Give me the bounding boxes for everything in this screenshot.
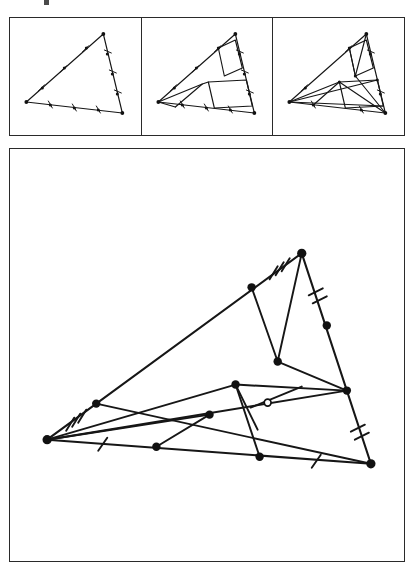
- point-right-vertex: [366, 459, 375, 468]
- scan-speck-artifact: [44, 0, 49, 5]
- double-tick-upper-right-b: [313, 296, 327, 303]
- thumb2-left-wedge-side: [175, 84, 202, 107]
- thumb1-triangle: [26, 34, 122, 113]
- long-cevian-upper-to-right: [96, 404, 371, 464]
- single-tick-base-right: [312, 455, 321, 468]
- page-root: [0, 0, 415, 572]
- side-AC: [47, 440, 371, 464]
- thumb3-cevian-6: [356, 34, 367, 76]
- cevian-upper-left: [252, 287, 278, 361]
- point-left-vertex: [43, 435, 52, 444]
- main-figure-drawing: [10, 149, 404, 561]
- construction-steps-strip: [9, 17, 405, 136]
- step-2-drawing: [142, 18, 273, 135]
- thumb2-parallelogram-lower: [208, 80, 252, 108]
- short-ray-center: [251, 387, 302, 408]
- strip-panel-step-1[interactable]: [10, 18, 141, 135]
- step-3-drawing: [273, 18, 404, 135]
- point-apex: [297, 249, 306, 258]
- main-figure-points: [43, 249, 376, 469]
- thumb2-triangle: [158, 34, 254, 113]
- point-quad-left: [231, 380, 239, 388]
- step-1-drawing: [10, 18, 141, 135]
- thumb3-triangle: [290, 34, 386, 113]
- thumb3-cevian-7: [350, 48, 356, 76]
- point-center-intersection: [264, 399, 271, 406]
- strip-panel-step-3[interactable]: [272, 18, 404, 135]
- main-construction-panel[interactable]: [9, 148, 405, 562]
- quad-top: [236, 385, 347, 391]
- thumb2-points: [156, 32, 256, 115]
- side-BC: [302, 253, 371, 464]
- segment-interior-right: [278, 362, 347, 391]
- point-base-mid: [255, 453, 263, 461]
- thumb3-cevian-4: [314, 82, 340, 105]
- point-bc-upper: [323, 321, 331, 329]
- thumb1-points: [24, 32, 124, 115]
- quad-left-side: [236, 385, 260, 457]
- point-interior-mid-left: [205, 410, 213, 418]
- point-ab-upper: [247, 283, 255, 291]
- point-ab-lower: [92, 399, 100, 407]
- thumb3-cevian-3: [290, 82, 340, 102]
- point-bc-lower: [343, 386, 351, 394]
- point-interior-upper: [273, 357, 281, 365]
- strip-panel-step-2[interactable]: [141, 18, 273, 135]
- point-base-left: [152, 443, 160, 451]
